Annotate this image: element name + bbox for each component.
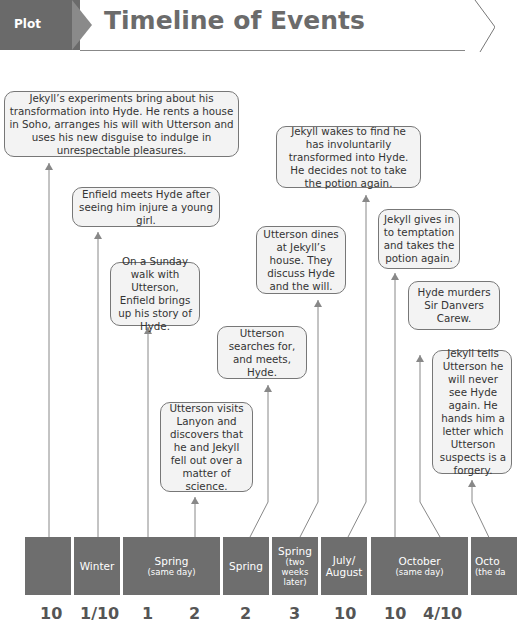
period-label: July/ August — [324, 554, 364, 578]
chapter-number: 4/10 — [423, 604, 462, 623]
chapter-number: 1/10 — [80, 604, 119, 623]
event-box: Utterson searches for, and meets, Hyde. — [217, 326, 307, 379]
period-label: October — [398, 555, 440, 567]
event-box: Jekyll’s experiments bring about his tra… — [4, 91, 239, 157]
event-box: Enfield meets Hyde after seeing him inju… — [72, 187, 220, 227]
event-box: Jekyll tells Utterson he will never see … — [432, 350, 512, 474]
period-bar: Spring (same day) — [123, 537, 220, 595]
chapter-number: 10 — [40, 604, 62, 623]
chapter-number: 3 — [289, 604, 300, 623]
chapter-number: 2 — [189, 604, 200, 623]
event-box: Utterson visits Lanyon and discovers tha… — [160, 402, 253, 492]
period-bar: October (same day) — [371, 537, 468, 595]
period-sublabel: (the da — [475, 567, 506, 577]
period-label: Spring — [278, 545, 312, 557]
period-label: Winter — [80, 560, 115, 572]
period-label: Spring — [229, 560, 263, 572]
chapter-number: 10 — [334, 604, 356, 623]
event-box: Utterson dines at Jekyll’s house. They d… — [256, 226, 346, 294]
period-sublabel: (same day) — [395, 567, 443, 577]
event-box: Hyde murders Sir Danvers Carew. — [408, 281, 500, 330]
chapter-number: 2 — [240, 604, 251, 623]
period-label: Octo — [475, 555, 500, 567]
event-box: Jekyll gives in to temptation and takes … — [378, 209, 460, 269]
chapter-number: 1 — [142, 604, 153, 623]
event-box: On a Sunday walk with Utterson, Enfield … — [110, 262, 200, 326]
period-bar: Spring (two weeks later) — [272, 537, 318, 595]
event-box: Jekyll wakes to find he has involuntaril… — [276, 126, 421, 188]
period-sublabel: (same day) — [147, 567, 195, 577]
period-bar: Octo (the da — [471, 537, 517, 595]
chapter-number: 10 — [384, 604, 406, 623]
period-sublabel: (two weeks later) — [277, 557, 313, 587]
period-bar: Winter — [74, 537, 120, 595]
period-bar: Spring — [223, 537, 269, 595]
period-label: Spring — [155, 555, 189, 567]
period-bar — [25, 537, 71, 595]
period-bar: July/ August — [321, 537, 367, 595]
